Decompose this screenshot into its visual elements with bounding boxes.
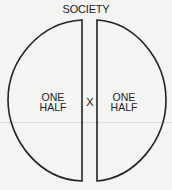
left-half-line2: HALF — [38, 102, 68, 112]
diagram-title: SOCIETY — [0, 3, 172, 15]
society-diagram — [0, 0, 172, 190]
right-half-line2: HALF — [109, 102, 139, 112]
right-half-label: ONE HALF — [109, 92, 139, 112]
separator-x: X — [84, 96, 96, 108]
left-half-label: ONE HALF — [38, 92, 68, 112]
